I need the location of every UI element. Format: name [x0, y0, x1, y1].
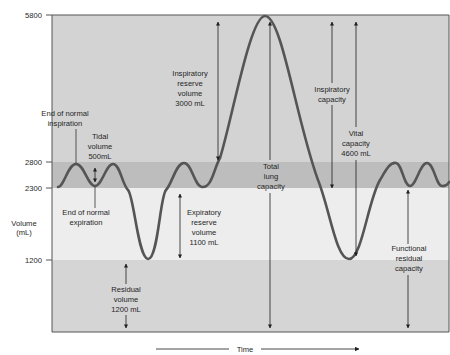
y-axis-unit: (mL): [16, 228, 32, 237]
y-axis-label: Volume: [11, 219, 36, 228]
svg-text:expiration: expiration: [70, 218, 103, 227]
svg-text:capacity: capacity: [257, 182, 285, 191]
tick-2800: 2800: [25, 158, 42, 167]
svg-text:volume: volume: [114, 295, 138, 304]
svg-text:3000 mL: 3000 mL: [175, 99, 205, 108]
svg-text:Inspiratory: Inspiratory: [314, 85, 350, 94]
svg-text:Tidal: Tidal: [92, 132, 108, 141]
svg-text:Inspiratory: Inspiratory: [172, 69, 208, 78]
svg-text:capacity: capacity: [342, 139, 370, 148]
svg-text:volume: volume: [192, 228, 216, 237]
expiratory-reserve-band: [52, 188, 449, 260]
svg-text:volume: volume: [88, 142, 112, 151]
svg-text:Residual: Residual: [111, 285, 141, 294]
svg-text:capacity: capacity: [318, 95, 346, 104]
svg-text:1100 mL: 1100 mL: [190, 238, 219, 247]
tick-2300: 2300: [25, 184, 42, 193]
svg-text:Expiratory: Expiratory: [187, 208, 221, 217]
residual-band: [52, 260, 449, 332]
svg-text:residual: residual: [396, 254, 423, 263]
svg-text:Total: Total: [263, 162, 279, 171]
svg-text:500mL: 500mL: [88, 152, 111, 161]
svg-text:4600 mL: 4600 mL: [341, 149, 371, 158]
svg-text:reserve: reserve: [191, 218, 216, 227]
time-axis: Time: [156, 345, 359, 354]
x-axis-label: Time: [237, 345, 254, 354]
tick-1200: 1200: [25, 256, 42, 265]
lung-volumes-diagram: 5800 2800 2300 1200 Volume (mL) End of n…: [0, 0, 450, 355]
svg-text:capacity: capacity: [395, 264, 423, 273]
svg-text:Vital: Vital: [349, 129, 364, 138]
svg-text:Functional: Functional: [391, 244, 426, 253]
svg-text:inspiration: inspiration: [48, 119, 83, 128]
svg-text:End of normal: End of normal: [41, 109, 89, 118]
svg-text:lung: lung: [264, 172, 278, 181]
svg-text:1200 mL: 1200 mL: [111, 305, 141, 314]
svg-text:reserve: reserve: [177, 79, 202, 88]
svg-text:End of normal: End of normal: [62, 208, 110, 217]
svg-text:volume: volume: [178, 89, 202, 98]
tick-5800: 5800: [25, 11, 42, 20]
